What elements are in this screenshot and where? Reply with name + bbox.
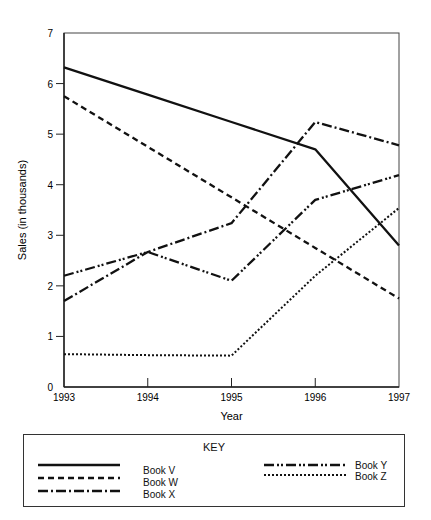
legend-label-book-v: Book V xyxy=(143,465,175,476)
line-chart: 0123456719931994199519961997YearSales (i… xyxy=(0,0,431,430)
legend-label-book-y: Book Y xyxy=(355,460,387,471)
x-tick-label: 1996 xyxy=(304,392,327,403)
y-tick-label: 3 xyxy=(47,230,53,241)
legend-swatch-book-z xyxy=(264,472,354,478)
series-line-book-w xyxy=(64,96,399,298)
x-tick-label: 1995 xyxy=(220,392,243,403)
x-tick-label: 1994 xyxy=(137,392,160,403)
y-tick-label: 6 xyxy=(47,79,53,90)
x-tick-label: 1993 xyxy=(53,392,76,403)
legend-label-book-w: Book W xyxy=(143,477,178,488)
legend-label-book-x: Book X xyxy=(143,489,175,500)
x-tick-label: 1997 xyxy=(388,392,411,403)
series-line-book-v xyxy=(64,67,399,245)
legend-title: KEY xyxy=(24,441,404,453)
legend-swatch-book-x xyxy=(38,488,128,494)
legend: KEY Book V Book W Book X Book Y Book Z xyxy=(23,434,405,507)
legend-swatch-book-w xyxy=(38,475,128,481)
legend-label-book-z: Book Z xyxy=(355,471,387,482)
y-tick-label: 2 xyxy=(47,281,53,292)
y-tick-label: 4 xyxy=(47,180,53,191)
y-tick-label: 5 xyxy=(47,129,53,140)
x-axis-title: Year xyxy=(220,410,243,422)
y-axis-title: Sales (in thousands) xyxy=(16,160,28,260)
legend-swatch-book-v xyxy=(38,462,128,468)
legend-swatch-book-y xyxy=(264,462,354,468)
y-tick-label: 7 xyxy=(47,28,53,39)
series-line-book-x xyxy=(64,122,399,301)
series-line-book-z xyxy=(64,208,399,356)
series-line-book-y xyxy=(64,175,399,281)
plot-frame xyxy=(64,33,399,387)
y-tick-label: 1 xyxy=(47,331,53,342)
